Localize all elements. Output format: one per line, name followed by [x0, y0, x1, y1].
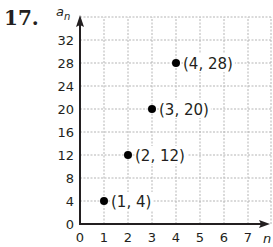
y-tick-label: 12 [57, 148, 74, 163]
data-point-label: (4, 28) [183, 55, 233, 73]
data-point-marker [148, 105, 156, 113]
x-tick-label: 6 [220, 230, 228, 245]
y-tick-label: 0 [66, 217, 74, 232]
data-point-label: (1, 4) [111, 193, 151, 211]
y-tick-label: 4 [66, 194, 74, 209]
y-axis-label: an [56, 4, 70, 22]
data-point-marker [172, 59, 180, 67]
x-tick-label: 4 [172, 230, 180, 245]
y-tick-label: 24 [57, 79, 74, 94]
x-tick-label: 3 [148, 230, 156, 245]
y-tick-label: 8 [66, 171, 74, 186]
grid-lines [80, 17, 271, 224]
data-point-label: (3, 20) [159, 101, 209, 119]
y-tick-label: 32 [57, 33, 74, 48]
data-point-label: (2, 12) [135, 147, 185, 165]
x-tick-label: 0 [76, 230, 84, 245]
x-tick-label: 2 [124, 230, 132, 245]
x-axis-label: n [263, 231, 271, 246]
axes [76, 15, 270, 228]
x-tick-label: 5 [196, 230, 204, 245]
data-point-marker [100, 197, 108, 205]
scatter-chart: 01234567048121620242832 (1, 4)(2, 12)(3,… [0, 0, 273, 247]
data-point-marker [124, 151, 132, 159]
x-tick-label: 7 [244, 230, 252, 245]
y-tick-label: 20 [57, 102, 74, 117]
y-tick-label: 28 [57, 56, 74, 71]
y-tick-label: 16 [57, 125, 74, 140]
x-tick-label: 1 [100, 230, 108, 245]
